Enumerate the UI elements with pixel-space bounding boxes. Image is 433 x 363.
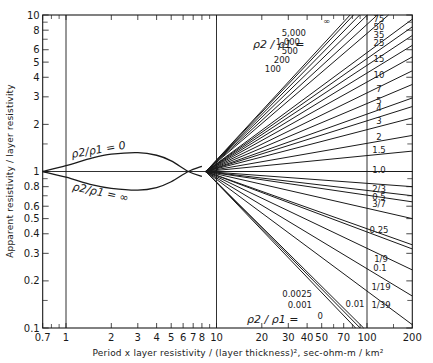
y-tick-label: 0.3	[24, 248, 40, 259]
magnetotelluric-sounding-chart: 0.7123456781020304050701002000.10.20.30.…	[0, 0, 433, 363]
x-tick-label: 4	[153, 332, 159, 343]
x-tick-label: 70	[337, 332, 350, 343]
x-tick-label: 40	[301, 332, 314, 343]
y-tick-label: 2	[33, 119, 39, 130]
y-tick-label: 0.2	[24, 275, 40, 286]
curve-label: 100	[265, 64, 281, 74]
x-tick-label: 7	[190, 332, 196, 343]
y-tick-label: 10	[27, 10, 40, 21]
y-tick-label: 6	[33, 44, 39, 55]
axis-ticks: 0.7123456781020304050701002000.10.20.30.…	[24, 10, 422, 344]
curve-label: 4	[376, 103, 381, 113]
y-tick-label: 5	[33, 57, 39, 68]
x-tick-label: 30	[282, 332, 295, 343]
x-tick-label: 1	[63, 332, 69, 343]
rho-ratio-lower-label: ρ2 / ρ1 =	[247, 313, 298, 326]
curve-label: 3	[376, 116, 381, 126]
rho-zero-label: ρ2/ρ1 = 0	[70, 139, 126, 161]
curve-label: 0.25	[370, 225, 389, 235]
curve-label: 0.0025	[282, 289, 312, 299]
curve-label: 0	[318, 311, 323, 321]
y-tick-label: 1	[33, 166, 39, 177]
y-tick-label: 0.6	[24, 201, 40, 212]
low-range-curve	[43, 166, 202, 190]
curve-label: ∞	[323, 16, 330, 26]
y-tick-label: 0.4	[24, 228, 40, 239]
curve-label: 15	[374, 54, 385, 64]
low-range-curve	[43, 153, 202, 177]
x-tick-label: 5	[168, 332, 174, 343]
y-tick-label: 8	[33, 25, 39, 36]
rho-infinity-label: ρ2/ρ1 = ∞	[71, 180, 130, 205]
x-tick-label: 100	[357, 332, 376, 343]
curve-label: 0.1	[373, 263, 387, 273]
curve-label: 10	[374, 70, 385, 80]
x-tick-label: 200	[403, 332, 422, 343]
x-tick-label: 50	[315, 332, 328, 343]
curve-label: 3/7	[372, 199, 386, 209]
x-tick-label: 0.7	[35, 332, 51, 343]
x-tick-label: 3	[135, 332, 141, 343]
curve-label: 1.0	[372, 165, 386, 175]
x-tick-label: 6	[180, 332, 186, 343]
y-tick-label: 4	[33, 72, 39, 83]
curve-label: 2	[376, 132, 381, 142]
x-tick-label: 20	[255, 332, 268, 343]
x-tick-label: 8	[199, 332, 205, 343]
x-axis-title: Period x layer resistivity / (layer thic…	[93, 348, 384, 358]
curve-label: 7	[376, 84, 381, 94]
y-tick-label: 3	[33, 91, 39, 102]
high-range-curve	[206, 172, 356, 329]
x-tick-label: 2	[108, 332, 114, 343]
curve-label: 1.5	[372, 145, 386, 155]
curve-labels: ρ2/ρ1 = 0ρ2/ρ1 = ∞ρ2 / ρ1 =ρ2 / ρ1 =∞5,0…	[70, 14, 390, 326]
y-tick-label: 0.5	[24, 213, 40, 224]
y-tick-label: 0.1	[24, 323, 40, 334]
curve-label: 0.001	[288, 300, 312, 310]
curve-label: 1/19	[371, 282, 390, 292]
curve-label: 1/39	[371, 300, 390, 310]
y-axis-title: Apparent resistivity / layer resistivity	[5, 84, 15, 258]
curve-label: 0.01	[346, 299, 365, 309]
curve-label: 25	[374, 38, 385, 48]
x-tick-label: 10	[210, 332, 223, 343]
y-tick-label: 0.8	[24, 181, 40, 192]
